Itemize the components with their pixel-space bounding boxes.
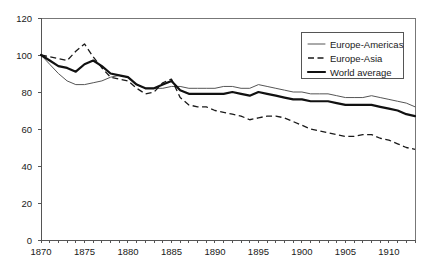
y-tick-label: 120 — [16, 13, 32, 24]
y-tick-label: 60 — [21, 124, 32, 135]
legend-label-europe-americas: Europe-Americas — [330, 39, 404, 50]
chart-container: 020406080100120 187018751880188518901895… — [0, 0, 431, 278]
y-tick-label: 0 — [27, 235, 32, 246]
legend-label-world-average: World average — [330, 67, 392, 78]
x-tick-label: 1900 — [291, 246, 312, 257]
legend-label-europe-asia: Europe-Asia — [330, 53, 383, 64]
x-tick-label: 1895 — [248, 246, 269, 257]
x-tick-label: 1910 — [378, 246, 399, 257]
x-tick-label: 1885 — [161, 246, 182, 257]
x-axis-tick-labels: 187018751880188518901895190019051910 — [30, 246, 399, 257]
x-tick-label: 1890 — [204, 246, 225, 257]
y-tick-label: 20 — [21, 198, 32, 209]
x-tick-label: 1905 — [335, 246, 356, 257]
y-tick-label: 80 — [21, 87, 32, 98]
x-tick-label: 1870 — [30, 246, 51, 257]
y-tick-label: 100 — [16, 50, 32, 61]
y-axis-tick-labels: 020406080100120 — [16, 13, 32, 246]
line-chart: 020406080100120 187018751880188518901895… — [0, 0, 431, 278]
y-tick-label: 40 — [21, 161, 32, 172]
chart-legend: Europe-AmericasEurope-AsiaWorld average — [301, 32, 404, 78]
x-tick-label: 1875 — [74, 246, 95, 257]
x-tick-label: 1880 — [117, 246, 138, 257]
